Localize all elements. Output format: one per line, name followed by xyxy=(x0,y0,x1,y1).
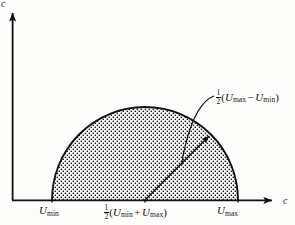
umid-operator: + xyxy=(134,206,140,218)
figure-container: c c Umin 12(Umin+Umax) Umax 12(Umax−Umin… xyxy=(0,0,295,225)
umid-close-paren: ) xyxy=(163,206,167,218)
tick-label-umax: Umax xyxy=(217,205,238,217)
umid-second-subscript: max xyxy=(150,210,163,219)
annotation-close-paren: ) xyxy=(275,91,279,103)
umid-first-subscript: min xyxy=(121,210,133,219)
radius-annotation-label: 12(Umax−Umin) xyxy=(216,89,279,105)
y-axis-label: c xyxy=(1,0,14,10)
semicircle-region xyxy=(52,107,238,200)
annotation-first-subscript: max xyxy=(233,95,246,104)
x-axis-label: c xyxy=(283,196,295,206)
umax-subscript: max xyxy=(225,209,238,218)
annotation-operator: − xyxy=(248,91,254,103)
umin-symbol: U xyxy=(39,204,47,216)
figure-drawing xyxy=(0,0,295,225)
umax-symbol: U xyxy=(217,204,225,216)
umid-second-symbol: U xyxy=(142,206,150,218)
umid-first-symbol: U xyxy=(113,206,121,218)
annotation-first-symbol: U xyxy=(225,91,233,103)
tick-label-umin: Umin xyxy=(39,205,59,217)
tick-label-umid: 12(Umin+Umax) xyxy=(104,204,167,220)
umin-subscript: min xyxy=(47,209,59,218)
annotation-second-subscript: min xyxy=(263,95,275,104)
